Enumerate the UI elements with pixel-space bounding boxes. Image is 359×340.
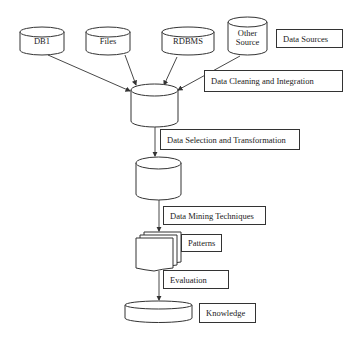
files-label: Files	[86, 37, 130, 46]
data-mining-box: Data Mining Techniques	[163, 206, 266, 225]
patterns-documents-icon	[136, 232, 181, 271]
rdbms-label: RDBMS	[162, 37, 214, 46]
data-cleaning-box: Data Cleaning and Integration	[204, 70, 343, 92]
other-source-label: Other Source	[228, 29, 267, 47]
patterns-box: Patterns	[181, 234, 222, 252]
evaluation-box: Evaluation	[163, 270, 229, 289]
other-source-label-line2: Source	[228, 38, 267, 47]
data-selection-box: Data Selection and Transformation	[160, 129, 300, 150]
warehouse-cylinder	[131, 84, 178, 127]
diagram-canvas	[0, 0, 359, 340]
knowledge-box: Knowledge	[199, 303, 256, 323]
transformed-data-cylinder	[136, 157, 181, 200]
data-sources-box: Data Sources	[276, 29, 343, 48]
knowledge-cylinder	[125, 301, 192, 323]
db1-label: DB1	[20, 37, 64, 46]
